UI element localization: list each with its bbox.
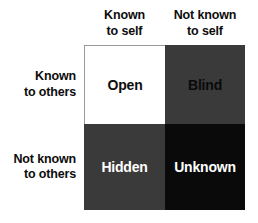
column-header-not-known-to-self-line1: Not known — [174, 8, 237, 24]
johari-window-diagram: Known to self Not known to self Known to… — [0, 0, 258, 223]
quadrant-blind: Blind — [165, 45, 245, 124]
row-header-not-known-to-others: Not known to others — [0, 124, 76, 210]
column-header-not-known-to-self-line2: to self — [187, 24, 223, 40]
quadrant-hidden: Hidden — [84, 124, 165, 210]
quadrant-unknown: Unknown — [165, 124, 245, 210]
column-header-known-to-self-line2: to self — [107, 24, 143, 40]
quadrant-blind-label: Blind — [188, 77, 222, 93]
column-header-not-known-to-self: Not known to self — [165, 8, 245, 42]
quadrant-grid: Open Blind Hidden Unknown — [84, 45, 245, 210]
quadrant-open-label: Open — [108, 77, 143, 93]
row-header-known-to-others-line1: Known — [35, 69, 76, 85]
row-header-known-to-others: Known to others — [0, 45, 76, 124]
quadrant-unknown-label: Unknown — [174, 159, 236, 175]
column-header-known-to-self-line1: Known — [104, 8, 145, 24]
quadrant-open: Open — [84, 45, 165, 124]
quadrant-hidden-label: Hidden — [101, 159, 147, 175]
row-header-not-known-to-others-line1: Not known — [13, 152, 76, 168]
row-header-known-to-others-line2: to others — [24, 85, 76, 101]
column-header-known-to-self: Known to self — [84, 8, 165, 42]
row-header-not-known-to-others-line2: to others — [24, 167, 76, 183]
